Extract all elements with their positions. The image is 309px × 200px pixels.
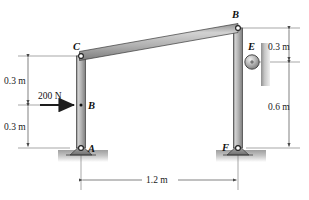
point-label-c: C <box>73 41 81 52</box>
dimension-right-upper-label: 0.3 m <box>268 42 290 52</box>
dimension-left-upper-label: 0.3 m <box>4 76 26 86</box>
point-label-f: F <box>221 142 229 153</box>
member-right-column <box>234 28 243 148</box>
diagram-canvas: 0.3 m 0.3 m 0.3 m 0.6 m 1.2 m 200 N A B … <box>0 0 309 200</box>
point-label-e: E <box>247 41 255 52</box>
dimension-right-lower-label: 0.6 m <box>268 102 290 112</box>
point-label-b-top: B <box>231 9 239 20</box>
pulley-E <box>245 55 259 69</box>
dimension-left-lower-label: 0.3 m <box>4 122 26 132</box>
statics-frame-diagram: 0.3 m 0.3 m 0.3 m 0.6 m 1.2 m 200 N A B … <box>0 0 309 200</box>
point-label-b-mid: B <box>87 100 95 111</box>
dimension-span-label: 1.2 m <box>146 175 168 185</box>
extension-lines <box>18 28 300 190</box>
force-label-200N: 200 N <box>38 91 62 101</box>
member-left-column <box>77 56 86 148</box>
point-label-a: A <box>87 143 95 154</box>
member-inclined-beam <box>80 24 239 61</box>
